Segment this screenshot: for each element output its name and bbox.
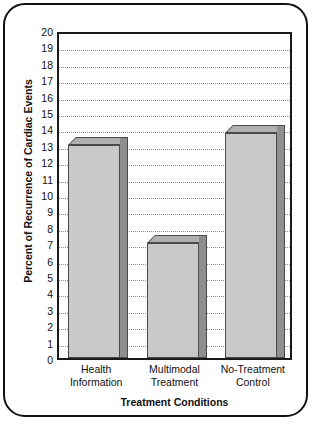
x-axis-tick-label-line: Information [57,376,135,389]
bar-side-face [199,235,207,358]
y-axis-tick-label: 18 [31,60,53,70]
y-axis-tick-label: 4 [31,289,53,299]
gridline [59,50,290,51]
y-axis-tick-label: 3 [31,306,53,316]
y-axis-tick-label: 8 [31,224,53,234]
bar [225,125,285,358]
x-axis-tick-label-line: Multimodal [135,363,213,376]
y-axis-tick-label: 20 [31,27,53,37]
bar-front-face [147,243,199,358]
y-axis-tick-label: 17 [31,76,53,86]
x-axis-tick-label: No-TreatmentControl [214,363,292,389]
y-axis-tick-label: 5 [31,273,53,283]
y-axis-tick-label: 13 [31,142,53,152]
bar-front-face [225,133,277,358]
bar [147,235,207,358]
x-axis-tick-label-line: Health [57,363,135,376]
gridline [59,83,290,84]
bar-top-face [68,137,128,145]
bar-top-face [147,235,207,243]
y-axis-tick-label: 0 [31,355,53,365]
x-axis-tick-label-line: Control [214,376,292,389]
gridline [59,67,290,68]
y-axis-tick-label: 2 [31,322,53,332]
x-axis-tick-label: MultimodalTreatment [135,363,213,389]
y-axis-tick-label: 10 [31,191,53,201]
y-axis-tick-label: 12 [31,158,53,168]
y-axis-tick-label: 7 [31,240,53,250]
gridline [59,116,290,117]
y-axis-tick-label: 16 [31,93,53,103]
y-axis-tick-labels: 20191817161514131211109876543210 [29,32,53,360]
x-axis-tick-label: HealthInformation [57,363,135,389]
x-axis-tick-label-line: Treatment [135,376,213,389]
x-axis-tick-labels: HealthInformationMultimodalTreatmentNo-T… [57,363,292,397]
bar-side-face [120,137,128,358]
y-axis-tick-label: 14 [31,125,53,135]
plot-area [57,32,292,360]
bar-front-face [68,145,120,358]
x-axis-title: Treatment Conditions [57,396,292,408]
y-axis-tick-label: 1 [31,339,53,349]
bar-top-face [225,125,285,133]
chart-page: Percent of Recurrence of Cardiac Events … [0,0,320,428]
y-axis-tick-label: 11 [31,175,53,185]
bar-side-face [277,125,285,358]
y-axis-tick-label: 15 [31,109,53,119]
x-axis-tick-label-line: No-Treatment [214,363,292,376]
gridline [59,100,290,101]
y-axis-tick-label: 19 [31,43,53,53]
bar [68,137,128,358]
y-axis-tick-label: 6 [31,257,53,267]
y-axis-tick-label: 9 [31,207,53,217]
